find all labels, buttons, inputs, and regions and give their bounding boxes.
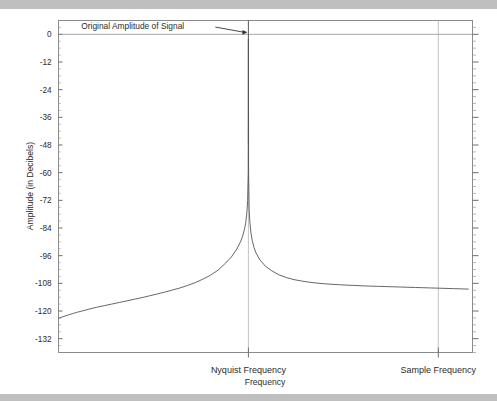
chart-canvas: 0-12-24-36-48-60-72-84-96-108-120-132 Ny… bbox=[0, 0, 497, 401]
y-tick-label: -120 bbox=[35, 307, 52, 316]
y-tick-label: -12 bbox=[40, 58, 52, 67]
data-series-aliased-spectrum bbox=[59, 21, 469, 319]
annotation-original-amplitude: Original Amplitude of Signal bbox=[81, 21, 247, 35]
plot-frame bbox=[59, 21, 473, 353]
x-axis-title: Frequency bbox=[245, 377, 286, 387]
series-line bbox=[59, 39, 469, 318]
y-tick-label: -96 bbox=[40, 252, 52, 261]
y-tick-label: -132 bbox=[35, 335, 52, 344]
annotation-arrow-line bbox=[215, 27, 244, 32]
x-reference-lines bbox=[248, 21, 438, 353]
figure-container: 0-12-24-36-48-60-72-84-96-108-120-132 Ny… bbox=[0, 0, 497, 401]
y-axis-right-ticks bbox=[473, 27, 479, 352]
y-axis-title: Amplitude (in Decibels) bbox=[25, 142, 35, 230]
annotation-text: Original Amplitude of Signal bbox=[81, 21, 184, 31]
y-tick-label: -48 bbox=[40, 141, 52, 150]
x-axis: Nyquist FrequencySample Frequency bbox=[211, 348, 477, 375]
x-tick-label: Nyquist Frequency bbox=[211, 365, 287, 375]
y-tick-label: -72 bbox=[40, 196, 52, 205]
y-tick-label: 0 bbox=[47, 30, 52, 39]
y-tick-label: -60 bbox=[40, 169, 52, 178]
x-tick-label: Sample Frequency bbox=[401, 365, 477, 375]
y-tick-label: -36 bbox=[40, 113, 52, 122]
y-tick-label: -108 bbox=[35, 279, 52, 288]
y-tick-label: -24 bbox=[40, 86, 52, 95]
y-tick-label: -84 bbox=[40, 224, 52, 233]
